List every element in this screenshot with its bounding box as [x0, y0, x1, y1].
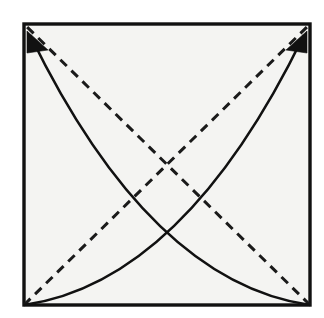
paper-face — [24, 24, 310, 305]
origami-diagram — [0, 0, 324, 318]
origami-figure-canvas — [0, 0, 324, 318]
